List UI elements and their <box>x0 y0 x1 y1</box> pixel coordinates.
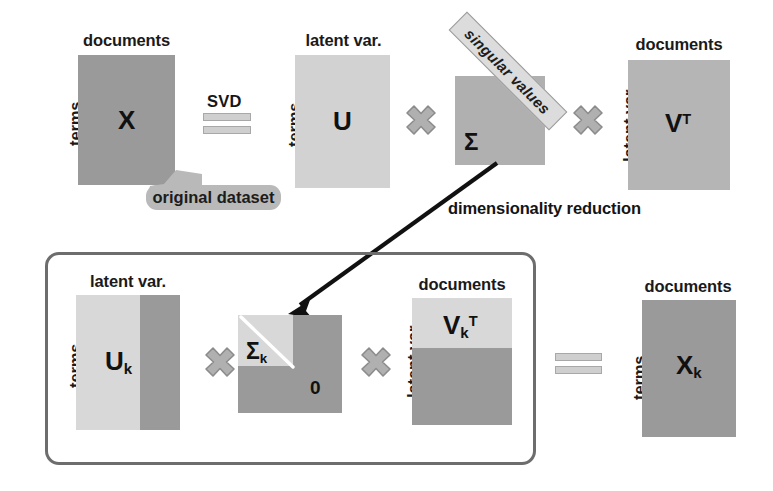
svd-diagram: documents terms X original dataset SVD l… <box>0 0 773 491</box>
matrix-vkt-label: VkT <box>443 312 478 338</box>
matrix-sigmak <box>238 315 342 413</box>
matrix-vkt-top-caption: documents <box>412 275 512 294</box>
matrix-sigmak-zero-label: 0 <box>310 378 321 397</box>
matrix-sigmak-subscript: k <box>260 351 267 366</box>
matrix-uk-label: Uk <box>105 348 132 374</box>
matrix-xk-top-caption: documents <box>640 277 736 296</box>
dimensionality-reduction-label: dimensionality reduction <box>448 199 641 218</box>
result-equals-icon <box>555 353 602 375</box>
matrix-uk-letter: U <box>105 346 124 376</box>
matrix-uk-top-caption: latent var. <box>76 272 180 291</box>
matrix-sigmak-diagonal-line <box>238 315 342 413</box>
matrix-vkt-superscript: T <box>469 313 478 329</box>
matrix-uk-subscript: k <box>124 360 132 377</box>
matrix-xk-label: Xk <box>676 352 702 378</box>
matrix-sigmak-letter: Σ <box>246 338 260 364</box>
multiply-icon-4 <box>359 345 393 379</box>
multiply-icon-3 <box>203 345 237 379</box>
matrix-xk-letter: X <box>676 350 693 380</box>
matrix-vkt-subscript: k <box>460 324 468 341</box>
matrix-xk-subscript: k <box>693 364 701 381</box>
matrix-vkt-letter: V <box>443 310 460 340</box>
matrix-sigmak-label: Σk <box>246 340 267 363</box>
